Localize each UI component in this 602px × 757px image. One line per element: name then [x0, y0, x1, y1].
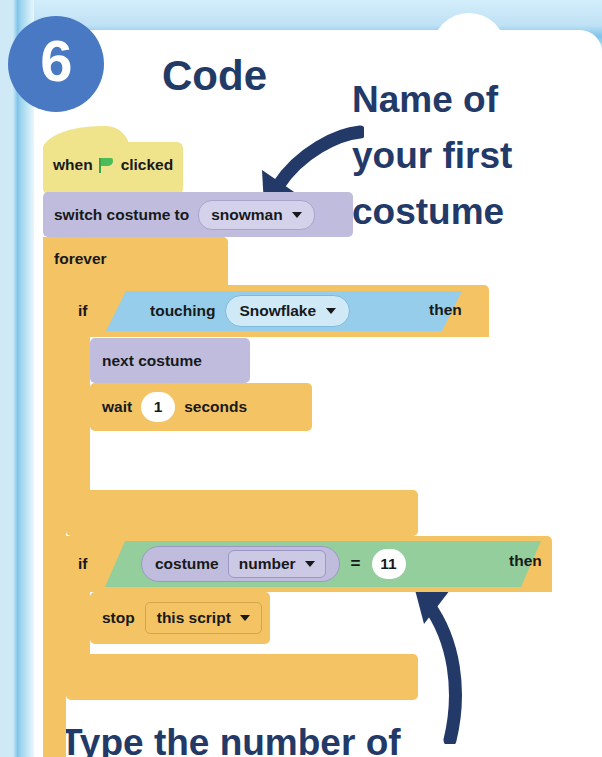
touching-label: touching: [150, 302, 215, 320]
forever-label: forever: [54, 250, 107, 268]
block-notch: [104, 592, 130, 598]
costume-reporter-label: costume: [155, 555, 219, 573]
caret-down-icon: [240, 615, 250, 621]
next-costume-block[interactable]: next costume: [90, 338, 250, 383]
compare-value-input[interactable]: 11: [372, 549, 406, 579]
block-notch: [57, 237, 83, 243]
annotation-costume-name: Name of your first costume: [352, 72, 602, 240]
wait-label: wait: [102, 398, 132, 416]
touching-target-dropdown[interactable]: Snowflake: [225, 295, 350, 327]
costume-dropdown-value: snowman: [211, 206, 282, 224]
stop-label: stop: [102, 609, 135, 627]
annotation-line-2: your first: [352, 128, 602, 184]
step-number-badge: 6: [8, 16, 104, 112]
block-notch: [104, 338, 130, 344]
costume-dropdown[interactable]: snowman: [198, 200, 314, 230]
equals-sign: =: [351, 554, 361, 574]
forever-left-arm: [43, 237, 66, 757]
touching-target-value: Snowflake: [239, 302, 316, 320]
if-label: if: [78, 555, 87, 573]
left-edge-strip: [0, 0, 34, 757]
page-title: Code: [162, 52, 267, 100]
costume-reporter-dropdown[interactable]: number: [228, 550, 326, 578]
poster-page: 6 Code Name of your first costume Type t…: [0, 0, 602, 757]
caret-down-icon: [305, 561, 315, 567]
stop-block[interactable]: stop this script: [90, 592, 270, 644]
block-notch: [104, 383, 130, 389]
costume-reporter-block[interactable]: costume number: [141, 546, 340, 582]
annotation-line-1: Name of: [352, 72, 602, 128]
clicked-label: clicked: [121, 156, 174, 174]
then-label-1: then: [429, 301, 462, 319]
annotation-bottom: Type the number of: [60, 718, 602, 757]
green-flag-icon: [99, 158, 115, 173]
when-label: when: [53, 156, 93, 174]
caret-down-icon: [292, 212, 302, 218]
if-label: if: [78, 302, 87, 320]
stop-option-value: this script: [157, 609, 231, 627]
if-costume-foot: [66, 654, 418, 700]
stop-option-dropdown[interactable]: this script: [145, 602, 262, 634]
hat-label-row: when clicked: [53, 156, 173, 174]
annotation-line-3: costume: [352, 184, 602, 240]
when-flag-clicked-block[interactable]: when clicked: [43, 142, 183, 194]
costume-reporter-dropdown-value: number: [239, 555, 296, 573]
seconds-label: seconds: [184, 398, 247, 416]
equals-operator-block[interactable]: costume number = 11: [105, 541, 541, 587]
next-costume-label: next costume: [102, 352, 202, 370]
wait-value-input[interactable]: 1: [141, 392, 175, 422]
switch-costume-to-block[interactable]: switch costume to snowman: [43, 192, 353, 237]
wait-seconds-block[interactable]: wait 1 seconds: [90, 383, 312, 431]
touching-sensing-block[interactable]: touching Snowflake: [106, 291, 462, 331]
caret-down-icon: [326, 308, 336, 314]
then-label-2: then: [509, 552, 542, 570]
if-touching-foot: [66, 490, 418, 536]
switch-costume-label: switch costume to: [54, 206, 189, 224]
forever-block[interactable]: forever: [43, 237, 228, 285]
block-notch: [57, 192, 83, 198]
step-number-value: 6: [40, 32, 71, 90]
